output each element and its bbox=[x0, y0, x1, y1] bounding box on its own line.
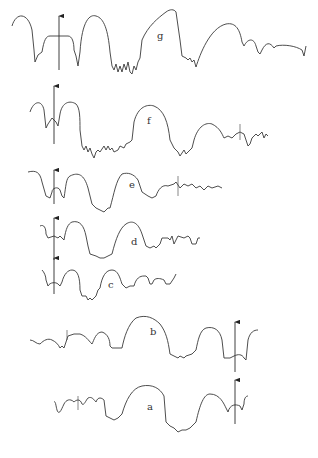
trace-e: e bbox=[28, 170, 222, 212]
trace-c: c bbox=[42, 258, 176, 300]
trace-g: g bbox=[12, 10, 306, 74]
trace-label-a: a bbox=[147, 401, 153, 412]
trace-label-b: b bbox=[150, 326, 156, 337]
trace-label-c: c bbox=[108, 279, 114, 290]
trace-a: a bbox=[54, 380, 248, 432]
waveform-diagram: g f e d c b a bbox=[0, 0, 318, 458]
trace-d: d bbox=[40, 218, 200, 260]
trace-f: f bbox=[30, 86, 268, 158]
trace-label-f: f bbox=[147, 115, 152, 126]
trace-label-e: e bbox=[129, 179, 135, 190]
trace-label-d: d bbox=[131, 236, 138, 247]
trace-b: b bbox=[30, 316, 258, 372]
trace-label-g: g bbox=[157, 30, 164, 41]
